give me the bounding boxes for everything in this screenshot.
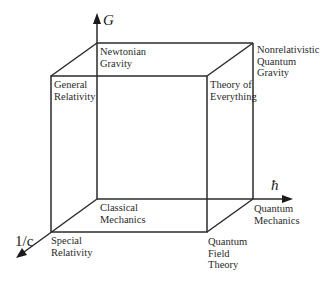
label-newtonian-gravity: Newtonian Gravity [100,46,146,69]
g-axis-arrowhead-icon [93,13,101,24]
label-quantum-mechanics: Quantum Mechanics [254,203,299,226]
label-nonrelativistic-quantum-gravity: Nonrelativistic Quantum Gravity [257,44,319,79]
hbar-axis-arrowhead-icon [282,195,293,203]
cube-lines [0,0,331,284]
axis-label-hbar: ħ [271,177,279,194]
axis-label-inverse-c: 1/c [15,233,33,250]
physics-cube-diagram: G ħ 1/c Newtonian Gravity Nonrelativisti… [0,0,331,284]
label-special-relativity: Special Relativity [51,235,92,258]
axis-label-g: G [103,12,114,29]
label-quantum-field-theory: Quantum Field Theory [208,236,247,271]
label-classical-mechanics: Classical Mechanics [100,202,145,225]
label-general-relativity: General Relativity [54,79,95,102]
label-theory-of-everything: Theory of Everything [210,79,257,102]
